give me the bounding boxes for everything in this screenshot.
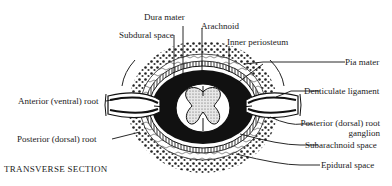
label-posterior-root-ganglion-line1: Posterior (dorsal) root (301, 118, 380, 128)
label-posterior-root-ganglion-line2: ganglion (349, 128, 381, 138)
spinal-cord-diagram: Dura mater Subdural space Arachnoid Inne… (0, 0, 392, 186)
label-dura-mater: Dura mater (144, 12, 185, 22)
label-subdural-space: Subdural space (119, 30, 174, 40)
label-denticulate-ligament: Denticulate ligament (304, 86, 379, 96)
label-subarachnoid-space: Subarachnoid space (305, 140, 377, 150)
left-root-sleeve (105, 93, 160, 118)
label-epidural-space: Epidural space (321, 160, 374, 170)
label-inner-periosteum: Inner periosteum (227, 37, 288, 47)
right-root-sleeve (246, 93, 301, 118)
label-anterior-root: Anterior (ventral) root (18, 96, 98, 106)
label-arachnoid: Arachnoid (201, 21, 239, 31)
label-pia-mater: Pia mater (345, 57, 379, 67)
label-posterior-root-ganglion: Posterior (dorsal) root ganglion (296, 118, 380, 138)
diagram-title: TRANSVERSE SECTION (4, 164, 108, 174)
label-posterior-root: Posterior (dorsal) root (17, 134, 96, 144)
